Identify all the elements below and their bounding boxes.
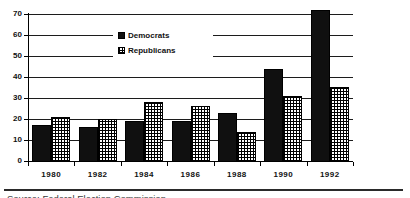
bar-democrats-1990 — [264, 69, 283, 162]
legend-label-democrats: Democrats — [128, 31, 169, 40]
bar-chart: 0102030405060701980198219841986198819901… — [0, 0, 410, 198]
x-axis-tick — [353, 162, 354, 166]
bar-democrats-1986 — [172, 121, 191, 162]
bar-democrats-1980 — [32, 125, 51, 162]
y-axis-label: 20 — [2, 114, 22, 124]
x-axis-tick — [214, 162, 215, 166]
legend-entry-democrats: Democrats — [118, 28, 213, 43]
y-axis-label: 30 — [2, 93, 22, 103]
legend-label-republicans: Republicans — [128, 46, 176, 55]
x-axis-label: 1984 — [121, 170, 167, 180]
source-caption: Source: Federal Election Commission — [7, 193, 407, 198]
x-axis-label: 1980 — [28, 170, 74, 180]
bar-republicans-1986 — [191, 106, 210, 162]
y-axis-label: 60 — [2, 30, 22, 40]
legend: Democrats Republicans — [113, 24, 213, 57]
x-axis-tick — [167, 162, 168, 166]
bar-republicans-1992 — [330, 87, 349, 162]
footer-divider — [4, 189, 403, 191]
bar-republicans-1980 — [51, 117, 70, 162]
bar-democrats-1988 — [218, 113, 237, 162]
y-axis-label: 40 — [2, 72, 22, 82]
gridline-30 — [28, 98, 353, 99]
x-axis-tick — [260, 162, 261, 166]
x-axis-label: 1988 — [214, 170, 260, 180]
y-axis — [28, 13, 29, 162]
x-axis-tick — [121, 162, 122, 166]
x-axis-tick — [74, 162, 75, 166]
gridline-40 — [28, 77, 353, 78]
bar-democrats-1984 — [125, 121, 144, 162]
bar-democrats-1982 — [79, 127, 98, 162]
x-axis-label: 1986 — [167, 170, 213, 180]
x-axis-label: 1992 — [307, 170, 353, 180]
republicans-swatch-icon — [118, 47, 125, 54]
x-axis-tick — [307, 162, 308, 166]
y-axis-label: 70 — [2, 9, 22, 19]
x-axis-tick — [28, 162, 29, 166]
y-axis-label: 10 — [2, 135, 22, 145]
y-axis-label: 0 — [2, 156, 22, 166]
bar-republicans-1984 — [144, 102, 163, 162]
bar-republicans-1990 — [283, 96, 302, 162]
gridline-70 — [28, 14, 353, 15]
x-axis-label: 1990 — [260, 170, 306, 180]
x-axis-label: 1982 — [74, 170, 120, 180]
democrats-swatch-icon — [118, 32, 125, 39]
y-axis-label: 50 — [2, 51, 22, 61]
bar-republicans-1988 — [237, 132, 256, 162]
bar-republicans-1982 — [98, 119, 117, 162]
bar-democrats-1992 — [311, 10, 330, 162]
legend-entry-republicans: Republicans — [118, 43, 213, 58]
